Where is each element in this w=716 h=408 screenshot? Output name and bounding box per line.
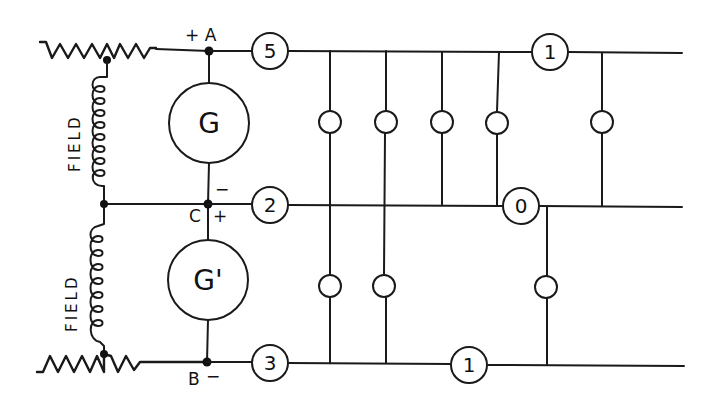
lamp-icon xyxy=(319,275,341,297)
badge-top-left: 5 xyxy=(252,33,288,69)
top-field-label: FIELD xyxy=(66,115,84,172)
badge-bottom-right-label: 1 xyxy=(463,353,476,377)
badge-bottom-right: 1 xyxy=(451,347,487,383)
field-junction-node xyxy=(100,200,108,208)
bottom-rheostat xyxy=(37,350,207,372)
upper-lamp-1 xyxy=(319,51,341,274)
top-field-coil: FIELD xyxy=(66,60,107,204)
terminal-C-minus: − xyxy=(215,179,229,199)
lamp-icon xyxy=(535,276,557,298)
upper-lamp-5 xyxy=(591,53,613,206)
top-field-coil-winding xyxy=(93,60,108,204)
badge-top-right: 1 xyxy=(532,34,568,70)
lamp-icon xyxy=(486,112,508,134)
generator-G: G xyxy=(169,51,249,204)
generator-G-label: G xyxy=(198,107,220,140)
upper-lamp-4-lead-top xyxy=(497,52,499,111)
lamp-icon xyxy=(375,111,397,133)
generator-G-prime-label: G' xyxy=(193,264,222,297)
top-rheostat xyxy=(40,42,209,64)
upper-lamp-2 xyxy=(375,51,397,274)
Gprime-to-B-wire xyxy=(207,320,208,362)
badge-middle-right-label: 0 xyxy=(515,194,528,218)
badge-middle-right: 0 xyxy=(503,188,539,224)
badge-bottom-left: 3 xyxy=(252,345,288,381)
badge-top-left-label: 5 xyxy=(264,39,277,63)
top-line-right xyxy=(568,52,682,53)
badge-middle-left-label: 2 xyxy=(264,193,277,217)
terminal-A-label: + A xyxy=(185,25,217,45)
G-to-C-wire xyxy=(208,163,209,204)
terminal-B-minus: − xyxy=(206,366,220,386)
bottom-line-right xyxy=(487,365,684,366)
badge-middle-left: 2 xyxy=(252,187,288,223)
lamp-icon xyxy=(591,111,613,133)
middle-line-right xyxy=(539,206,682,207)
lamp-icon xyxy=(431,111,453,133)
upper-lamp-4 xyxy=(486,52,508,206)
bottom-field-coil-winding xyxy=(91,204,105,354)
bottom-field-coil: FIELD xyxy=(63,204,104,354)
generator-G-prime: G' xyxy=(168,204,248,362)
lower-lamp-2 xyxy=(373,275,395,363)
badge-top-right-label: 1 xyxy=(544,40,557,64)
middle-line-left xyxy=(288,205,503,206)
rheostat-to-A-wire xyxy=(156,49,209,51)
circuit-diagram: FIELD FIELD G G' + A − C + B − xyxy=(0,0,716,408)
lamp-icon xyxy=(373,275,395,297)
bottom-field-label: FIELD xyxy=(63,275,81,332)
lower-lamp-3 xyxy=(535,207,557,365)
upper-lamp-2-lead-bottom xyxy=(384,133,385,274)
top-line-left xyxy=(288,51,532,52)
badge-bottom-left-label: 3 xyxy=(264,351,277,375)
lower-lamp-1 xyxy=(319,275,341,363)
bottom-rheostat-zigzag xyxy=(37,354,207,372)
lamp-icon xyxy=(319,111,341,133)
top-rheostat-zigzag xyxy=(40,42,156,58)
terminal-B-label: B xyxy=(188,369,200,389)
upper-lamp-3 xyxy=(431,52,453,205)
terminal-C-label: C xyxy=(189,206,201,226)
rheostat-tap-node-bottom xyxy=(100,350,108,358)
terminal-C-plus: + xyxy=(213,206,227,226)
bottom-line-left xyxy=(288,363,451,364)
